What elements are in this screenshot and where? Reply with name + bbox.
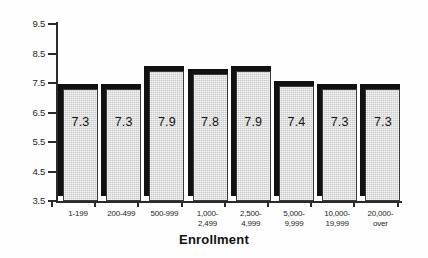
bar: 7.3 (360, 84, 400, 201)
bar-value-label: 7.3 (63, 116, 98, 129)
y-axis-tick: 5.5 (48, 141, 56, 143)
bar-face (193, 74, 228, 201)
bar-face (106, 89, 141, 201)
plot-area: 7.37.37.97.87.97.47.37.3 (56, 18, 404, 206)
bar-face (365, 89, 400, 201)
y-axis-tick-label: 6.5 (32, 108, 45, 118)
bar-face (149, 71, 184, 201)
bar: 7.4 (274, 81, 314, 201)
y-axis-tick: 9.5 (48, 23, 56, 25)
bar-chart: 9.58.57.56.55.54.53.5 7.37.37.97.87.97.4… (0, 0, 428, 258)
bar-value-label: 7.9 (236, 116, 271, 129)
bar: 7.3 (317, 84, 357, 201)
bar: 7.3 (101, 84, 141, 201)
x-axis-category-label: 20,000- over (356, 209, 404, 228)
bar-value-label: 7.8 (193, 116, 228, 129)
bar-face (279, 86, 314, 201)
bar: 7.9 (231, 66, 271, 201)
y-axis-tick: 8.5 (48, 53, 56, 55)
y-axis-tick-label: 4.5 (32, 167, 45, 177)
bar-face (322, 89, 357, 201)
x-axis-category-label: 10,000- 19,999 (313, 209, 361, 228)
x-axis-category-label: 2,500- 4,999 (227, 209, 275, 228)
y-axis-tick: 6.5 (48, 112, 56, 114)
bar-value-label: 7.3 (322, 116, 357, 129)
bar: 7.8 (188, 69, 228, 201)
bar-value-label: 7.3 (365, 116, 400, 129)
x-axis-category-label: 5,000- 9,999 (270, 209, 318, 228)
y-axis-tick-label: 5.5 (32, 137, 45, 147)
y-axis-tick-label: 8.5 (32, 49, 45, 59)
bar-value-label: 7.4 (279, 116, 314, 129)
y-axis-tick-label: 7.5 (32, 78, 45, 88)
x-axis-category-label: 1,000- 2,499 (184, 209, 232, 228)
y-axis-tick-label: 3.5 (32, 196, 45, 206)
bar-face (63, 89, 98, 201)
bar: 7.9 (144, 66, 184, 201)
x-axis-title: Enrollment (0, 232, 428, 247)
bar-value-label: 7.9 (149, 116, 184, 129)
x-axis-category-label: 200-499 (97, 209, 145, 219)
bar-face (236, 71, 271, 201)
bar-value-label: 7.3 (106, 116, 141, 129)
y-axis-tick: 4.5 (48, 171, 56, 173)
y-axis-tick-label: 9.5 (32, 19, 45, 29)
bar: 7.3 (58, 84, 98, 201)
x-axis-category-label: 500-999 (140, 209, 188, 219)
x-axis-category-label: 1-199 (54, 209, 102, 219)
y-axis-tick: 7.5 (48, 82, 56, 84)
x-axis-tick (51, 201, 53, 207)
